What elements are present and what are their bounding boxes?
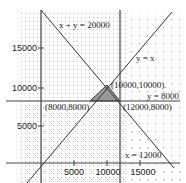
x-tick-15000: 15000: [130, 167, 155, 177]
label-y-equals-x: y = x: [136, 53, 155, 63]
y-tick-5000: 5000: [17, 121, 37, 131]
label-point-12000-8000: (12000,8000): [123, 102, 172, 112]
x-tick-5000: 5000: [64, 167, 84, 177]
y-tick-10000: 10000: [12, 83, 37, 93]
label-x-plus-y: x + y = 20000: [59, 20, 110, 30]
label-y-8000: y = 8000: [147, 91, 180, 101]
x-tick-10000: 10000: [95, 167, 120, 177]
label-point-8000-8000: (8000,8000): [45, 102, 89, 112]
y-tick-15000: 15000: [12, 43, 37, 53]
label-point-10000-10000: (10000,10000).: [111, 80, 167, 90]
linear-programming-chart: 15000 10000 5000 5000 10000 15000 x + y …: [0, 0, 186, 183]
label-x-12000: x = 12000: [125, 150, 162, 160]
